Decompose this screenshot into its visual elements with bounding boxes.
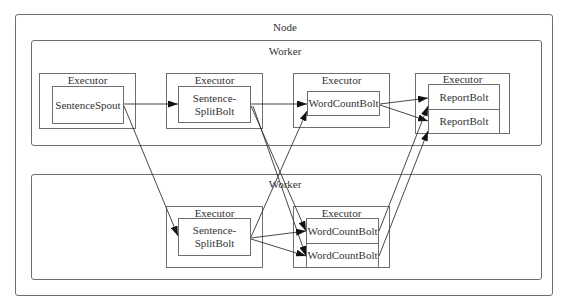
task-report-bolt-b: ReportBolt bbox=[428, 109, 500, 134]
task-report-bolt-a: ReportBolt bbox=[428, 84, 500, 110]
task-word-count-bolt-1: WordCountBolt bbox=[307, 91, 380, 116]
task-word-count-bolt-2b: WordCountBolt bbox=[306, 243, 379, 268]
executor-label: Executor bbox=[293, 74, 390, 86]
node-label: Node bbox=[260, 21, 310, 33]
task-sentence-split-bolt-1: Sentence- SplitBolt bbox=[178, 86, 251, 123]
worker-2-label: Worker bbox=[255, 178, 315, 190]
worker-1-label: Worker bbox=[255, 45, 315, 57]
executor-label: Executor bbox=[166, 74, 263, 86]
task-sentence-split-bolt-2: Sentence- SplitBolt bbox=[178, 218, 251, 256]
task-word-count-bolt-2a: WordCountBolt bbox=[306, 218, 379, 244]
task-sentence-spout: SentenceSpout bbox=[52, 86, 124, 124]
executor-label: Executor bbox=[39, 74, 136, 86]
